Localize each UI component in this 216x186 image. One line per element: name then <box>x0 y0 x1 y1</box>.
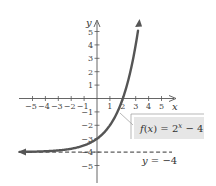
curve-arrow-up-icon <box>135 19 142 27</box>
curve-arrow-left-icon <box>18 148 26 155</box>
x-tick-label: 4 <box>146 102 151 111</box>
y-tick-label: −2 <box>81 121 93 130</box>
asymptote-label: y = −4 <box>141 155 177 166</box>
asymptote-value: = −4 <box>148 155 177 166</box>
ticks: −5−4−3−2−112345−5−4−3−2−112345 <box>25 28 164 171</box>
exponential-curve <box>20 31 138 152</box>
x-axis-label: x <box>172 101 178 112</box>
x-tick-label: 3 <box>133 102 138 111</box>
function-graph: xy −5−4−3−2−112345−5−4−3−2−112345 f(x) =… <box>0 0 216 186</box>
x-tick-label: −5 <box>25 102 37 111</box>
y-tick-label: 3 <box>88 54 93 63</box>
x-tick-label: −4 <box>38 102 50 111</box>
y-tick-label: −5 <box>81 162 93 171</box>
y-tick-label: 2 <box>88 68 93 77</box>
x-tick-label: −3 <box>51 102 63 111</box>
y-tick-label: 5 <box>88 28 93 37</box>
y-tick-label: 1 <box>88 81 93 90</box>
x-tick-label: 1 <box>107 102 112 111</box>
equals-base: ) = 2 <box>153 123 178 134</box>
y-tick-label: −1 <box>81 108 93 117</box>
annotations: f(x) = 2x − 4y = −4 <box>120 113 204 166</box>
function-label: f(x) = 2x − 4 <box>139 122 203 134</box>
y-axis-label: y <box>85 17 92 28</box>
x-tick-label: −2 <box>64 102 76 111</box>
y-tick-label: 4 <box>88 41 93 50</box>
x-tick-label: 5 <box>159 102 164 111</box>
minus-four: − 4 <box>182 123 203 134</box>
